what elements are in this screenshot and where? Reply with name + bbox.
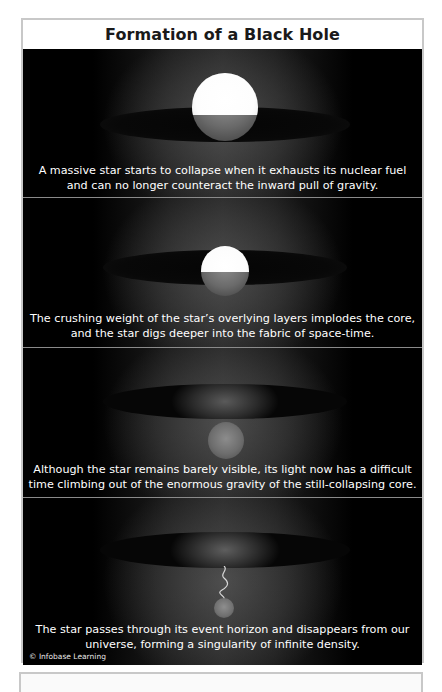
caption-line-1: A massive star starts to collapse when i…: [23, 163, 422, 178]
caption-line-2: and can no longer counteract the inward …: [23, 178, 422, 193]
caption-line-1: The crushing weight of the star’s overly…: [23, 311, 422, 326]
caption-line-2: universe, forming a singularity of infin…: [23, 637, 422, 652]
caption-line-2: time climbing out of the enormous gravit…: [23, 477, 422, 492]
spacetime-disk: [100, 532, 350, 568]
caption-stage-3: Although the star remains barely visible…: [23, 462, 422, 492]
star-upper-half: [201, 246, 249, 272]
caption-line-2: and the star digs deeper into the fabric…: [23, 326, 422, 341]
panel-stage-3: Although the star remains barely visible…: [23, 348, 422, 498]
star-upper-half: [192, 73, 258, 115]
dim-star: [208, 422, 244, 459]
spacetime-disk: [103, 384, 347, 419]
title-bar: Formation of a Black Hole: [23, 20, 422, 49]
caption-stage-1: A massive star starts to collapse when i…: [23, 163, 422, 193]
copyright-notice: © Infobase Learning: [29, 652, 106, 661]
panel-stage-1: A massive star starts to collapse when i…: [23, 49, 422, 198]
caption-line-1: The star passes through its event horizo…: [23, 622, 422, 637]
caption-stage-4: The star passes through its event horizo…: [23, 622, 422, 652]
caption-stage-2: The crushing weight of the star’s overly…: [23, 311, 422, 341]
figure-title: Formation of a Black Hole: [105, 25, 340, 44]
next-figure-frame: [19, 672, 423, 692]
caption-line-1: Although the star remains barely visible…: [23, 462, 422, 477]
figure-frame: Formation of a Black Hole A massive star…: [21, 18, 424, 663]
panel-stage-4: The star passes through its event horizo…: [23, 498, 422, 665]
light-squiggle-icon: [216, 566, 232, 600]
panel-stage-2: The crushing weight of the star’s overly…: [23, 198, 422, 348]
singularity: [214, 598, 234, 618]
